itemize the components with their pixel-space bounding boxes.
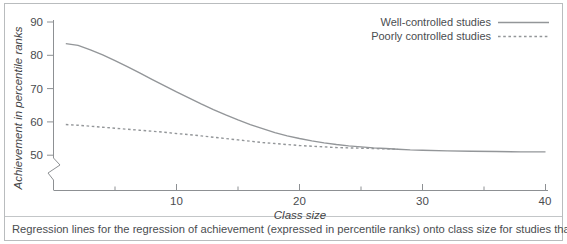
chart-legend: Well-controlled studies Poorly controlle… <box>371 16 549 42</box>
y-axis-title: Achievement in percentile ranks <box>12 26 24 190</box>
chart-canvas: 90 80 70 60 50 Achievement in percentile… <box>0 0 567 244</box>
x-tick-label: 20 <box>293 195 306 207</box>
series-line-well-controlled <box>66 44 546 152</box>
x-axis-tick-labels: 10 20 30 40 <box>170 195 551 207</box>
figure-caption: Regression lines for the regression of a… <box>12 222 557 236</box>
x-tick-label: 40 <box>539 195 552 207</box>
y-axis-break-icon <box>48 158 60 190</box>
y-axis-tick-labels: 90 80 70 60 50 <box>30 16 43 161</box>
x-tick-label: 30 <box>416 195 429 207</box>
figure-container: 90 80 70 60 50 Achievement in percentile… <box>0 0 567 244</box>
y-tick-label: 70 <box>30 83 43 95</box>
y-tick-label: 90 <box>30 16 43 28</box>
y-tick-label: 60 <box>30 116 43 128</box>
x-tick-label: 10 <box>170 195 183 207</box>
legend-label-well-controlled: Well-controlled studies <box>381 16 492 28</box>
legend-label-poorly-controlled: Poorly controlled studies <box>371 30 491 42</box>
x-axis-title: Class size <box>274 209 326 221</box>
y-axis-ticks <box>47 22 54 155</box>
y-tick-label: 50 <box>30 149 43 161</box>
y-tick-label: 80 <box>30 49 43 61</box>
